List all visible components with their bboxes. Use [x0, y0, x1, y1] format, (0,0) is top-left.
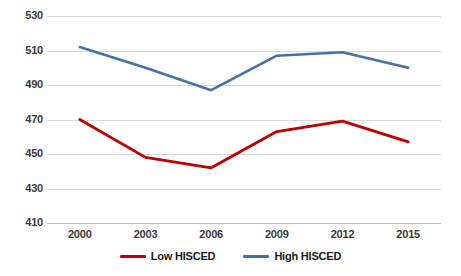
legend-label: High HISCED — [274, 250, 341, 262]
series-layer — [47, 16, 441, 223]
x-tick-label: 2009 — [250, 228, 304, 240]
y-tick-label: 410 — [3, 216, 43, 228]
series-line-high-hisced — [80, 47, 408, 90]
line-swatch-red-icon — [120, 255, 146, 258]
x-tick-label: 2012 — [316, 228, 370, 240]
legend-item-high-hisced: High HISCED — [243, 250, 341, 262]
y-tick-label: 450 — [3, 147, 43, 159]
legend-label: Low HISCED — [151, 250, 216, 262]
legend-item-low-hisced: Low HISCED — [120, 250, 216, 262]
series-line-low-hisced — [80, 120, 408, 168]
chart-legend: Low HISCED High HISCED — [0, 250, 461, 262]
line-swatch-blue-icon — [243, 255, 269, 258]
x-tick-label: 2000 — [53, 228, 107, 240]
y-tick-label: 470 — [3, 113, 43, 125]
y-tick-label: 430 — [3, 182, 43, 194]
line-chart: 530 510 490 470 450 430 410 2000 2003 20… — [0, 0, 461, 276]
x-tick-label: 2015 — [381, 228, 435, 240]
y-tick-label: 530 — [3, 9, 43, 21]
y-tick-label: 510 — [3, 44, 43, 56]
x-tick-label: 2003 — [119, 228, 173, 240]
x-axis-line — [47, 223, 441, 224]
y-tick-label: 490 — [3, 78, 43, 90]
x-tick-label: 2006 — [184, 228, 238, 240]
